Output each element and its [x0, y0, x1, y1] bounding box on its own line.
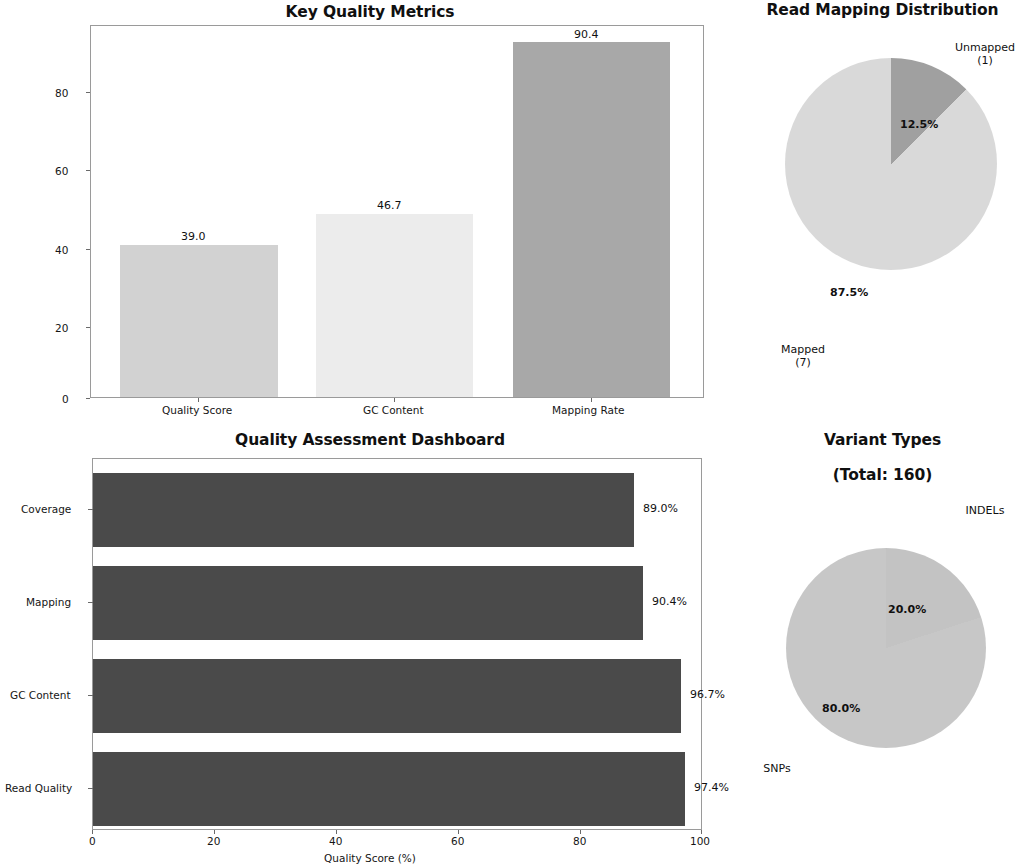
read-mapping-pie	[785, 58, 997, 270]
x-tick-mark-gc-content	[394, 398, 395, 402]
key-quality-metrics-chart: Key Quality Metrics Score/Percentage 0 2…	[0, 0, 740, 430]
pie-label-mapped-name: Mapped	[781, 343, 825, 356]
y-tick-80: 80	[55, 87, 68, 99]
bar-value-mapping-rate: 90.4	[574, 28, 599, 41]
x-tick-mark-80	[580, 830, 581, 834]
x-tick-mark-0	[92, 830, 93, 834]
y-tick-mark-read-quality	[88, 788, 93, 789]
x-label-100: 100	[690, 835, 710, 847]
hbar-value-mapping: 90.4%	[652, 595, 687, 608]
y-label-mapping: Mapping	[26, 596, 71, 608]
bar-quality-score	[120, 245, 278, 397]
hbar-value-coverage: 89.0%	[643, 502, 678, 515]
read-mapping-distribution-chart: Read Mapping Distribution 12.5% 87.5% Un…	[730, 0, 1035, 415]
bar-value-gc-content: 46.7	[377, 199, 402, 212]
hbar-gc-content	[93, 659, 681, 733]
x-label-20: 20	[207, 835, 220, 847]
variant-types-title: Variant Types (Total: 160)	[730, 415, 1035, 484]
read-mapping-title: Read Mapping Distribution	[730, 2, 1035, 19]
y-tick-60: 60	[55, 165, 68, 177]
hbar-coverage	[93, 473, 634, 547]
hbar-value-read-quality: 97.4%	[694, 781, 729, 794]
y-label-read-quality: Read Quality	[5, 782, 72, 794]
y-tick-mark-mapping	[88, 602, 93, 603]
hbar-mapping	[93, 566, 643, 640]
x-label-gc-content: GC Content	[363, 404, 424, 416]
variant-types-pie	[786, 548, 986, 748]
x-tick-mark-quality-score	[198, 398, 199, 402]
dashboard-x-axis-label: Quality Score (%)	[0, 852, 740, 864]
x-tick-mark-20	[214, 830, 215, 834]
pie-label-mapped-count: (7)	[795, 356, 811, 369]
pie-label-unmapped-count: (1)	[977, 54, 993, 67]
x-tick-mark-40	[336, 830, 337, 834]
key-quality-metrics-title: Key Quality Metrics	[0, 4, 740, 21]
y-tick-0: 0	[62, 393, 69, 405]
x-label-40: 40	[329, 835, 342, 847]
x-label-mapping-rate: Mapping Rate	[552, 404, 624, 416]
pie-label-mapped: Mapped (7)	[758, 344, 848, 369]
bar-value-quality-score: 39.0	[181, 230, 206, 243]
pie-label-unmapped: Unmapped (1)	[940, 42, 1030, 67]
x-label-quality-score: Quality Score	[162, 404, 232, 416]
pie-label-indels: INDELs	[945, 505, 1025, 518]
bar-mapping-rate	[513, 42, 670, 397]
x-tick-mark-mapping-rate	[591, 398, 592, 402]
y-tick-mark-0	[86, 398, 90, 399]
pie-label-snps: SNPs	[742, 763, 812, 776]
variant-types-chart: Variant Types (Total: 160) 20.0% 80.0% I…	[730, 415, 1035, 867]
pie-slice-pct-indels: 20.0%	[888, 603, 926, 616]
x-tick-mark-100	[701, 830, 702, 834]
variant-types-title-line2: (Total: 160)	[833, 466, 932, 484]
x-label-0: 0	[89, 835, 96, 847]
dashboard-title: Quality Assessment Dashboard	[0, 432, 740, 449]
y-tick-40: 40	[55, 244, 68, 256]
pie-slice-pct-mapped: 87.5%	[830, 286, 868, 299]
y-tick-20: 20	[55, 322, 68, 334]
variant-types-title-line1: Variant Types	[824, 431, 941, 449]
dashboard-plot-area	[92, 458, 702, 830]
quality-assessment-dashboard-chart: Quality Assessment Dashboard Coverage Ma…	[0, 430, 740, 867]
bar-gc-content	[316, 214, 473, 397]
pie-slice-pct-snps: 80.0%	[822, 702, 860, 715]
y-label-coverage: Coverage	[21, 503, 71, 515]
x-label-80: 80	[573, 835, 586, 847]
y-tick-mark-coverage	[88, 509, 93, 510]
x-tick-mark-60	[458, 830, 459, 834]
hbar-read-quality	[93, 752, 685, 826]
y-label-gc-content: GC Content	[10, 689, 71, 701]
pie-slice-pct-unmapped: 12.5%	[900, 118, 938, 131]
x-label-60: 60	[451, 835, 464, 847]
pie-label-unmapped-name: Unmapped	[955, 41, 1015, 54]
hbar-value-gc-content: 96.7%	[690, 688, 725, 701]
y-tick-mark-gc-content	[88, 695, 93, 696]
